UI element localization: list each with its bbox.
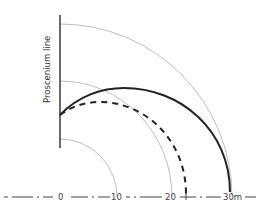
axis-label-10: 10 (111, 192, 122, 202)
axis-label-0: 0 (58, 192, 63, 202)
proscenium-line-label: Proscenium line (42, 36, 52, 103)
dashed-sightline-arc (60, 102, 186, 194)
radius-arc-20m (60, 81, 172, 197)
radius-arc-10m (60, 139, 117, 197)
radius-arc-30m (60, 24, 232, 197)
axis-label-30m: 30m (223, 192, 242, 202)
theatre-sightline-diagram: 0 10 20 30m Proscenium line (0, 0, 262, 211)
axis-label-20: 20 (165, 192, 176, 202)
baseline-axis (4, 193, 256, 200)
